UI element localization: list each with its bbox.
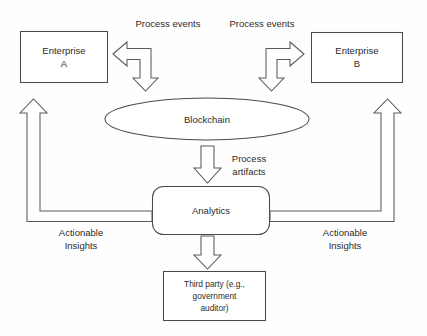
analytics-label: Analytics <box>192 205 230 216</box>
third-party-label-line3: auditor) <box>200 303 228 313</box>
third-party-label-line2: government <box>193 291 238 301</box>
bent-double-arrow-left-down <box>113 42 158 91</box>
actionable-insights-right-label-line1: Actionable <box>323 227 367 238</box>
process-artifacts-label-line1: Process <box>232 153 267 164</box>
enterprise-a-label-line1: Enterprise <box>42 45 85 56</box>
actionable-insights-right-label-line2: Insights <box>329 240 362 251</box>
enterprise-a-label-line2: A <box>61 58 68 69</box>
process-events-right-label: Process events <box>230 18 295 29</box>
process-events-left-label: Process events <box>136 18 201 29</box>
node-enterprise-b[interactable]: Enterprise B <box>312 33 403 83</box>
actionable-insights-left-label-line2: Insights <box>65 240 98 251</box>
diagram-canvas: Enterprise A Enterprise B Blockchain Ana… <box>0 0 427 336</box>
enterprise-b-label-line2: B <box>354 58 360 69</box>
process-flow-diagram: Enterprise A Enterprise B Blockchain Ana… <box>0 0 427 336</box>
third-party-label-line1: Third party (e.g., <box>184 279 245 289</box>
node-blockchain[interactable]: Blockchain <box>105 98 309 140</box>
edge-process-events-left[interactable]: Process events <box>113 18 201 91</box>
enterprise-b-label-line1: Enterprise <box>335 45 378 56</box>
edge-process-artifacts[interactable]: Process artifacts <box>194 146 266 183</box>
node-third-party[interactable]: Third party (e.g., government auditor) <box>164 272 266 321</box>
down-block-arrow-third-party <box>194 236 221 269</box>
edge-analytics-to-third-party[interactable] <box>194 236 221 269</box>
actionable-insights-left-label-line1: Actionable <box>59 227 103 238</box>
process-artifacts-label-line2: artifacts <box>232 166 266 177</box>
node-analytics[interactable]: Analytics <box>153 187 270 235</box>
blockchain-label: Blockchain <box>184 114 230 125</box>
bent-double-arrow-right-down <box>259 42 304 91</box>
down-block-arrow-artifacts <box>194 146 221 183</box>
node-enterprise-a[interactable]: Enterprise A <box>21 32 108 83</box>
edge-process-events-right[interactable]: Process events <box>230 18 304 91</box>
